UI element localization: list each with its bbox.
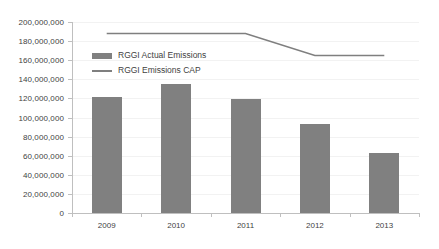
chart-legend: RGGI Actual Emissions RGGI Emissions CAP <box>92 50 206 76</box>
y-axis-tick-label: 180,000,000 <box>18 37 64 46</box>
x-axis-line <box>72 213 420 214</box>
legend-label-emissions-cap: RGGI Emissions CAP <box>118 65 201 76</box>
x-axis-tick <box>211 213 212 217</box>
line-swatch-icon <box>92 70 112 72</box>
bar-swatch-icon <box>92 53 112 59</box>
y-axis-line <box>72 22 73 213</box>
x-axis-tick-label-2013: 2013 <box>375 221 393 230</box>
x-axis-tick <box>419 213 420 217</box>
x-axis-tick-label-2010: 2010 <box>167 221 185 230</box>
x-axis-tick <box>350 213 351 217</box>
y-axis-tick-label: 160,000,000 <box>18 56 64 65</box>
legend-label-actual-emissions: RGGI Actual Emissions <box>118 50 206 61</box>
y-axis-tick-label: 120,000,000 <box>18 94 64 103</box>
legend-item-emissions-cap: RGGI Emissions CAP <box>92 65 206 76</box>
y-axis-tick-label: 20,000,000 <box>23 189 64 198</box>
y-axis-tick-label: 200,000,000 <box>18 18 64 27</box>
x-axis-tick-label-2011: 2011 <box>237 221 254 230</box>
x-axis-tick-label-2009: 2009 <box>98 221 116 230</box>
x-axis-tick-label-2012: 2012 <box>306 221 324 230</box>
x-axis-tick <box>72 213 73 217</box>
emissions-chart: 200,000,000180,000,000160,000,000140,000… <box>0 0 439 249</box>
legend-item-actual-emissions: RGGI Actual Emissions <box>92 50 206 61</box>
x-axis-tick <box>141 213 142 217</box>
y-axis-tick-label: 0 <box>59 209 64 218</box>
y-axis-labels: 200,000,000180,000,000160,000,000140,000… <box>0 0 70 249</box>
y-axis-tick-label: 140,000,000 <box>18 75 64 84</box>
x-axis-tick <box>280 213 281 217</box>
y-axis-tick-label: 40,000,000 <box>23 170 64 179</box>
y-axis-tick-label: 80,000,000 <box>23 132 64 141</box>
y-axis-tick-label: 60,000,000 <box>23 151 64 160</box>
y-axis-tick-label: 100,000,000 <box>18 113 64 122</box>
